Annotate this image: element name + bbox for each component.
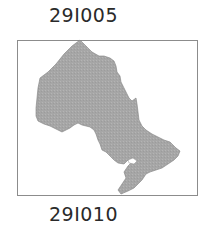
map-title-bottom: 29I010 (49, 205, 118, 224)
ontario-map (0, 0, 214, 228)
province-shape (36, 40, 180, 194)
